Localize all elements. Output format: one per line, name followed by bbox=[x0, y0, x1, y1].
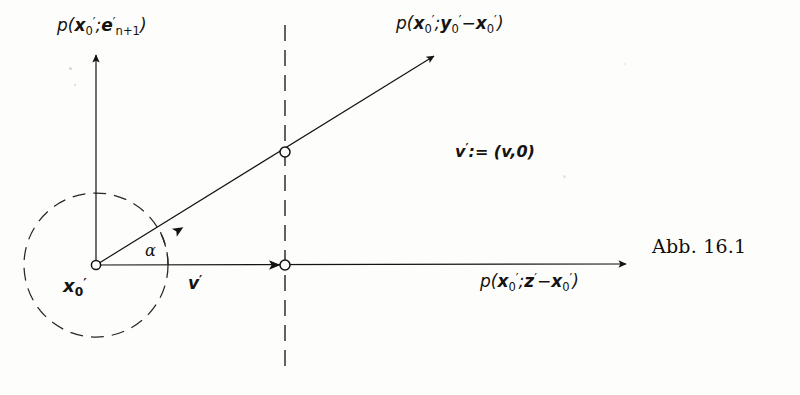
figure-container: p(x0′;e′n+1) p(x0′;y0′−x0′) p(x0′;z′−x0′… bbox=[0, 0, 800, 395]
diagonal-intersection-marker bbox=[280, 147, 290, 157]
diagonal-unit-arrowhead bbox=[172, 223, 186, 236]
angle-alpha-label: α bbox=[145, 243, 156, 259]
scan-speck bbox=[69, 67, 72, 70]
scan-speck bbox=[74, 84, 76, 86]
diagram-canvas bbox=[0, 0, 800, 395]
horizontal-intersection-marker bbox=[280, 260, 290, 270]
scan-speck bbox=[624, 63, 626, 65]
vprime-definition-label: v′:= (v,0) bbox=[455, 143, 535, 160]
figure-caption: Abb. 16.1 bbox=[652, 237, 746, 256]
alpha-arc bbox=[157, 226, 168, 265]
diagonal-ray-label: p(x0′;y0′−x0′) bbox=[396, 14, 504, 35]
horizontal-axis-label: p(x0′;z′−x0′) bbox=[480, 272, 579, 293]
vprime-vector-label: v′ bbox=[188, 274, 202, 292]
horizontal-axis-line bbox=[96, 264, 626, 265]
origin-marker bbox=[91, 260, 100, 269]
diagonal-ray-line bbox=[96, 56, 434, 265]
origin-point-label: x0′ bbox=[63, 277, 87, 299]
scan-speck bbox=[563, 175, 566, 178]
vertical-axis-label: p(x0′;e′n+1) bbox=[57, 16, 147, 37]
